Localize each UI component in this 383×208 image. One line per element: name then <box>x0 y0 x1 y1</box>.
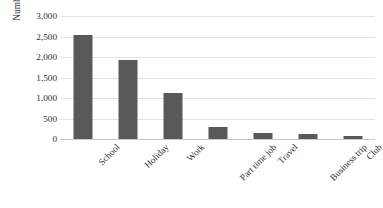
bar-chart: Number of selections 05001,0001,5002,000… <box>0 0 383 208</box>
bar-slot <box>105 16 150 139</box>
bar-slot <box>285 16 330 139</box>
y-tick-label: 0 <box>22 134 57 144</box>
y-tick-label: 2,000 <box>22 52 57 62</box>
x-tick-label: Business trip <box>327 142 369 184</box>
bars-layer <box>60 16 375 139</box>
y-tick-label: 3,000 <box>22 11 57 21</box>
bar[interactable] <box>298 134 317 139</box>
y-tick-label: 1,000 <box>22 93 57 103</box>
x-tick-label: Work <box>184 142 206 164</box>
bar[interactable] <box>208 127 227 140</box>
y-tick-label: 500 <box>22 114 57 124</box>
bar[interactable] <box>73 35 92 139</box>
x-tick-label: School <box>96 142 122 168</box>
y-axis-tick-labels: 05001,0001,5002,0002,5003,000 <box>22 11 57 139</box>
x-axis-tick-labels: SchoolHolidayWorkPart time jobTravelBusi… <box>60 140 375 206</box>
bar[interactable] <box>343 136 362 139</box>
bar[interactable] <box>253 133 272 139</box>
bar-slot <box>150 16 195 139</box>
x-tick-label: Travel <box>275 142 300 167</box>
bar-slot <box>60 16 105 139</box>
bar[interactable] <box>163 93 182 139</box>
y-tick-label: 2,500 <box>22 32 57 42</box>
bar[interactable] <box>118 60 137 139</box>
y-tick-label: 1,500 <box>22 73 57 83</box>
x-tick-label: Part time job <box>237 142 278 183</box>
plot-area <box>60 16 375 139</box>
bar-slot <box>240 16 285 139</box>
bar-slot <box>195 16 240 139</box>
x-tick-label: Holiday <box>142 142 171 171</box>
x-tick-label: Club <box>364 142 383 162</box>
bar-slot <box>330 16 375 139</box>
